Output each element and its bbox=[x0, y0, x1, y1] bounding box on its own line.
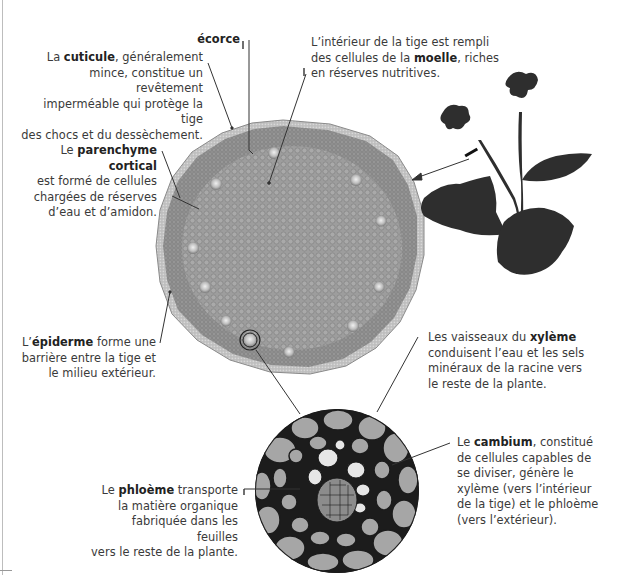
cuticule-prefix: La bbox=[47, 50, 64, 64]
cuticule-suffix: , généralement bbox=[115, 50, 203, 64]
pith bbox=[182, 146, 402, 350]
term-parenchyme-cortical: parenchyme cortical bbox=[77, 143, 157, 173]
epiderme-prefix: L’ bbox=[22, 335, 32, 349]
label-ecorce: écorce bbox=[170, 32, 240, 48]
label-epiderme: L’épiderme forme une barrière entre la t… bbox=[20, 335, 156, 382]
highlighted-bundle bbox=[243, 333, 257, 347]
parenchyme-line-2: chargées de réserves bbox=[20, 190, 157, 206]
moelle-prefix: des cellules de la bbox=[311, 51, 414, 65]
magnified-bundle bbox=[253, 409, 419, 573]
moelle-suffix: , riches bbox=[457, 51, 499, 65]
cambium-suffix: , constitué bbox=[533, 435, 594, 449]
phloeme-line-1: la matière organique bbox=[90, 499, 238, 515]
epiderme-suffix: forme une bbox=[93, 335, 156, 349]
term-cuticule: cuticule bbox=[64, 50, 115, 64]
label-cambium: Le cambium, constitué de cellules capabl… bbox=[457, 435, 607, 528]
cambium-prefix: Le bbox=[457, 435, 474, 449]
cuticule-line-3: des chocs et du dessèchement. bbox=[20, 128, 203, 144]
parenchyme-line-3: d’eau et d’amidon. bbox=[20, 205, 157, 221]
phloeme-suffix: transporte bbox=[174, 483, 238, 497]
moelle-line-1: L’intérieur de la tige est rempli bbox=[311, 35, 511, 51]
plant-silhouette bbox=[421, 72, 592, 275]
epiderme-line-2: le milieu extérieur. bbox=[20, 366, 156, 382]
xyleme-line-1: conduisent l’eau et les sels bbox=[428, 346, 598, 362]
xyleme-prefix: Les vaisseaux du bbox=[428, 330, 530, 344]
stem-cross-section bbox=[156, 120, 424, 374]
cambium-line-1: de cellules capables de bbox=[457, 451, 607, 467]
label-xyleme: Les vaisseaux du xylème conduisent l’eau… bbox=[428, 330, 598, 392]
parenchyme-prefix: Le bbox=[60, 143, 77, 157]
moelle-line-3: en réserves nutritives. bbox=[311, 66, 511, 82]
label-phloeme: Le phloème transporte la matière organiq… bbox=[90, 483, 238, 561]
xyleme-line-2: minéraux de la racine vers bbox=[428, 361, 598, 377]
cambium-line-2: se diviser, génère le bbox=[457, 466, 607, 482]
cuticule-line-2: imperméable qui protège la tige bbox=[20, 97, 203, 128]
term-phloeme: phloème bbox=[119, 483, 175, 497]
term-moelle: moelle bbox=[414, 51, 457, 65]
cambium-line-4: de la tige) et le phloème bbox=[457, 497, 607, 513]
epiderme-line-1: barrière entre la tige et bbox=[20, 351, 156, 367]
cut-location-arrow bbox=[412, 159, 469, 180]
label-cuticule: La cuticule, généralement mince, constit… bbox=[20, 50, 203, 143]
phloeme-prefix: Le bbox=[102, 483, 119, 497]
cuticule-line-1: mince, constitue un revêtement bbox=[20, 66, 203, 97]
term-cambium: cambium bbox=[474, 435, 533, 449]
xyleme-line-3: le reste de la plante. bbox=[428, 377, 598, 393]
label-parenchyme-cortical: Le parenchyme cortical est formé de cell… bbox=[20, 143, 157, 221]
label-moelle: L’intérieur de la tige est rempli des ce… bbox=[311, 35, 511, 82]
phloeme-line-3: vers le reste de la plante. bbox=[90, 545, 238, 561]
cambium-line-3: xylème (vers l’intérieur bbox=[457, 482, 607, 498]
term-epiderme: épiderme bbox=[32, 335, 93, 349]
phloeme-line-2: fabriquée dans les feuilles bbox=[90, 514, 238, 545]
term-ecorce: écorce bbox=[197, 32, 240, 46]
cambium-line-5: (vers l’extérieur). bbox=[457, 513, 607, 529]
term-xyleme: xylème bbox=[530, 330, 576, 344]
parenchyme-line-1: est formé de cellules bbox=[20, 174, 157, 190]
